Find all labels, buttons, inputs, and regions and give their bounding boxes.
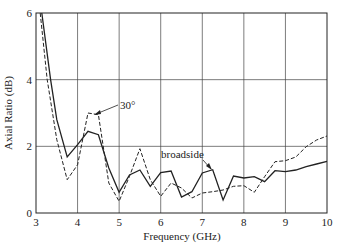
grid xyxy=(36,13,327,213)
annotation-30deg-label: 30° xyxy=(120,99,135,111)
thirty-degree-line xyxy=(40,13,327,201)
x-tick-label: 10 xyxy=(322,216,334,228)
annotation-broadside-label: broadside xyxy=(161,148,204,160)
broadside-line xyxy=(42,13,327,200)
y-tick-label: 2 xyxy=(27,140,33,152)
x-tick-label: 3 xyxy=(33,216,39,228)
annotation-broadside: broadside xyxy=(161,148,212,170)
tick-labels: 3456789100246 xyxy=(27,7,334,228)
x-tick-label: 4 xyxy=(75,216,81,228)
x-tick-label: 7 xyxy=(200,216,206,228)
x-tick-label: 8 xyxy=(241,216,247,228)
x-axis-label: Frequency (GHz) xyxy=(143,230,221,243)
annotation-30deg: 30° xyxy=(94,99,135,115)
x-tick-label: 6 xyxy=(158,216,164,228)
series-lines xyxy=(40,13,327,201)
plot-frame xyxy=(36,13,327,213)
x-tick-label: 5 xyxy=(116,216,122,228)
x-tick-label: 9 xyxy=(283,216,289,228)
y-tick-label: 0 xyxy=(27,207,33,219)
axial-ratio-chart: 3456789100246 Frequency (GHz) Axial Rati… xyxy=(0,0,341,252)
y-axis-label: Axial Ratio (dB) xyxy=(2,76,15,150)
y-tick-label: 4 xyxy=(27,74,33,86)
y-tick-label: 6 xyxy=(27,7,33,19)
